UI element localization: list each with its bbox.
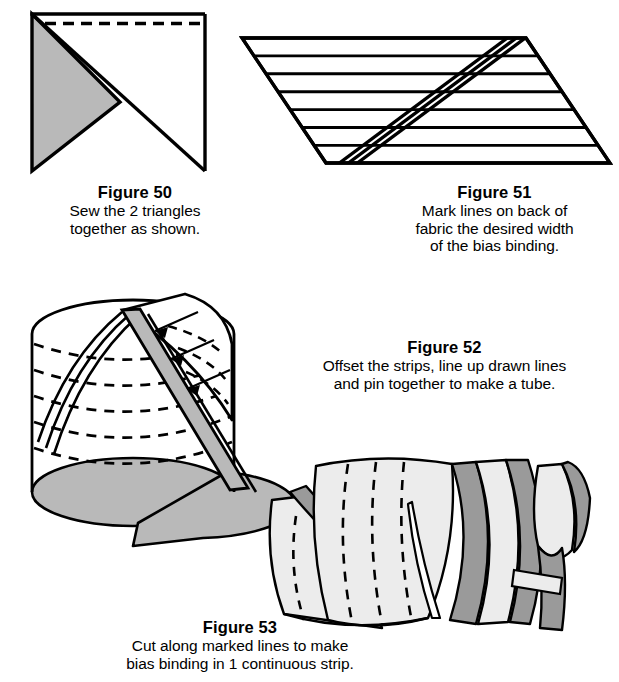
figure-53-illustration [262, 442, 612, 637]
figure-51-illustration [236, 26, 616, 176]
figure-52-illustration [18, 292, 276, 580]
figure-53-svg [262, 442, 612, 637]
figure-51-svg [236, 26, 616, 176]
figure-50-caption-line-2: together as shown. [10, 220, 260, 237]
shaded-triangle [32, 14, 120, 171]
figure-50-svg [24, 6, 214, 181]
figure-52-number: Figure 52 [270, 338, 619, 356]
figure-52-caption-line-2: and pin together to make a tube. [270, 375, 619, 392]
figure-53-caption-line-2: bias binding in 1 continuous strip. [30, 655, 450, 672]
figure-52-caption-line-1: Offset the strips, line up drawn lines [270, 357, 619, 374]
figure-50-number: Figure 50 [10, 183, 260, 201]
figure-50-caption-line-1: Sew the 2 triangles [10, 202, 260, 219]
figure-50-illustration [24, 6, 214, 181]
figure-53-number: Figure 53 [30, 618, 450, 636]
figure-51-caption-line-1: Mark lines on back of [370, 202, 619, 219]
figure-51-caption-line-3: of the bias binding. [370, 237, 619, 254]
figure-50-caption: Figure 50 Sew the 2 triangles together a… [10, 183, 260, 237]
figure-53-caption-line-1: Cut along marked lines to make [30, 637, 450, 654]
figure-53-caption: Figure 53 Cut along marked lines to make… [30, 618, 450, 672]
figure-51-caption: Figure 51 Mark lines on back of fabric t… [370, 183, 619, 255]
figure-51-number: Figure 51 [370, 183, 619, 201]
figure-52-caption: Figure 52 Offset the strips, line up dra… [270, 338, 619, 392]
figure-51-caption-line-2: fabric the desired width [370, 220, 619, 237]
figure-52-svg [18, 292, 276, 580]
